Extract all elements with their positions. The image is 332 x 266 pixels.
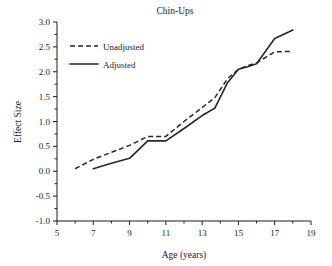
y-tick-label: 1.0 xyxy=(39,117,51,127)
x-tick-label: 5 xyxy=(55,228,60,238)
x-tick-label: 9 xyxy=(127,228,132,238)
chart-figure: Chin-Ups -1.0-0.50.00.51.01.52.02.53.0 5… xyxy=(0,0,332,266)
y-tick-label: 0.0 xyxy=(39,166,51,176)
y-axis: -1.0-0.50.00.51.01.52.02.53.0 xyxy=(36,17,57,226)
y-tick-label: 2.0 xyxy=(39,67,51,77)
x-tick-label: 17 xyxy=(270,228,280,238)
x-axis: 5791113151719 xyxy=(55,221,316,238)
y-tick-label: 0.5 xyxy=(39,141,51,151)
x-tick-label: 19 xyxy=(307,228,317,238)
chin-ups-line-chart: Chin-Ups -1.0-0.50.00.51.01.52.02.53.0 5… xyxy=(0,0,332,266)
x-tick-label: 15 xyxy=(234,228,244,238)
chart-legend: UnadjustedAdjusted xyxy=(70,42,144,70)
y-tick-label: -0.5 xyxy=(36,191,51,201)
y-tick-label: 1.5 xyxy=(39,92,51,102)
y-tick-label: 2.5 xyxy=(39,42,51,52)
x-tick-label: 13 xyxy=(198,228,208,238)
y-axis-title: Effect Size xyxy=(13,101,23,143)
x-tick-label: 7 xyxy=(91,228,96,238)
x-tick-label: 11 xyxy=(162,228,171,238)
legend-label-adjusted: Adjusted xyxy=(103,60,136,70)
y-tick-label: -1.0 xyxy=(36,216,51,226)
legend-label-unadjusted: Unadjusted xyxy=(103,42,144,52)
chart-title: Chin-Ups xyxy=(157,6,194,16)
x-axis-title: Age (years) xyxy=(162,250,207,261)
y-tick-label: 3.0 xyxy=(39,17,51,27)
